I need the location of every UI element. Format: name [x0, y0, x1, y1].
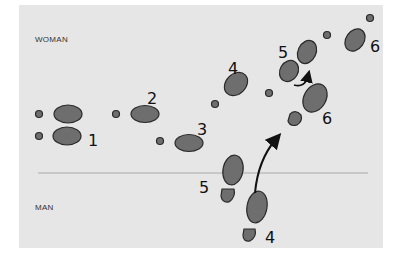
heel-icon: [288, 112, 302, 126]
heel-icon: [243, 229, 255, 241]
step-number: 6: [322, 109, 332, 128]
footsteps-diagram: 1 2 3 4 5 6 6 4 5: [0, 0, 402, 260]
step-number: 4: [228, 59, 238, 78]
heel-icon: [367, 15, 374, 22]
footprint-icon: [53, 127, 81, 145]
step-number: 3: [197, 120, 207, 139]
heel-icon: [157, 138, 164, 145]
heel-icon: [36, 133, 43, 140]
footprint-icon: [244, 190, 269, 225]
footprint-icon: [221, 153, 246, 186]
heel-icon: [212, 101, 219, 108]
heel-icon: [266, 90, 273, 97]
step-number: 1: [88, 131, 98, 150]
arrow-icon: [255, 139, 276, 193]
footprint-icon: [341, 25, 370, 55]
step-number: 4: [265, 228, 275, 247]
footprint-icon: [131, 106, 159, 123]
footprint-icon: [294, 37, 320, 66]
heel-icon: [113, 111, 120, 118]
step-number: 5: [278, 43, 288, 62]
step-number: 6: [370, 37, 380, 56]
step-number: 5: [199, 178, 209, 197]
heel-icon: [36, 111, 43, 118]
heel-icon: [324, 32, 331, 39]
footprint-icon: [54, 105, 82, 123]
step-number: 2: [147, 89, 157, 108]
heel-icon: [221, 189, 234, 202]
